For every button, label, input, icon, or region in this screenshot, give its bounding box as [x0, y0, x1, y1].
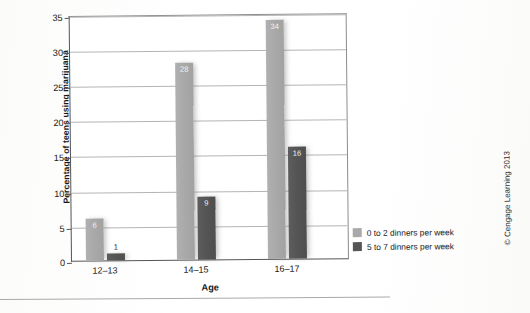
- bar-5to7-14-15[interactable]: 9: [197, 196, 216, 259]
- bar-chart-figure: Percentage of teens using marijuana 35 3…: [0, 0, 530, 313]
- bar-0to2-16-17[interactable]: 34: [266, 20, 286, 259]
- y-tick-label-0: 0: [60, 257, 65, 267]
- y-tick-10: [66, 193, 71, 194]
- chart-legend: 0 to 2 dinners per week 5 to 7 dinners p…: [353, 225, 454, 254]
- y-tick-5: [67, 228, 72, 229]
- bar-value-0to2-12-13: 6: [86, 220, 104, 229]
- legend-item-0to2[interactable]: 0 to 2 dinners per week: [353, 225, 454, 239]
- y-tick-25: [65, 88, 70, 89]
- bar-value-5to7-12-13: 1: [107, 242, 125, 251]
- bar-0to2-12-13[interactable]: 6: [86, 218, 104, 260]
- legend-swatch-icon-dark: [353, 242, 362, 251]
- bar-group-16-17: 34 16: [266, 14, 328, 259]
- y-tick-label-10: 10: [54, 188, 64, 198]
- bar-value-5to7-16-17: 16: [288, 148, 306, 157]
- y-tick-label-25: 25: [53, 83, 63, 93]
- y-tick-label-5: 5: [60, 224, 65, 234]
- bar-5to7-16-17[interactable]: 16: [288, 146, 307, 259]
- bar-value-0to2-16-17: 34: [266, 22, 284, 31]
- y-tick-0: [67, 262, 72, 263]
- x-tick-label-16-17: 16–17: [275, 264, 300, 274]
- x-tick-label-14-15: 14–15: [184, 265, 209, 275]
- bar-value-5to7-14-15: 9: [197, 198, 215, 207]
- y-tick-30: [65, 53, 70, 54]
- bar-0to2-14-15[interactable]: 28: [175, 63, 195, 260]
- legend-item-5to7[interactable]: 5 to 7 dinners per week: [353, 239, 454, 253]
- plot-area: 35 30 25 20 15 10 5 0: [69, 13, 349, 262]
- x-tick-label-12-13: 12–13: [93, 265, 118, 275]
- y-tick-20: [66, 123, 71, 124]
- y-tick-label-20: 20: [53, 118, 63, 128]
- y-tick-35: [65, 18, 70, 19]
- legend-label-0to2: 0 to 2 dinners per week: [367, 227, 454, 238]
- legend-swatch-icon-light: [353, 228, 362, 237]
- bar-5to7-12-13[interactable]: 1: [107, 253, 125, 260]
- y-tick-label-15: 15: [54, 153, 64, 163]
- bar-group-14-15: 28 9: [175, 15, 237, 260]
- bar-group-12-13: 6 1: [84, 16, 146, 261]
- y-tick-15: [66, 158, 71, 159]
- copyright-credit: © Cengage Learning 2013: [502, 138, 512, 258]
- bar-value-0to2-14-15: 28: [175, 65, 193, 74]
- x-axis-title: Age: [71, 281, 349, 294]
- y-tick-label-30: 30: [53, 48, 63, 58]
- y-tick-label-35: 35: [52, 13, 62, 23]
- legend-label-5to7: 5 to 7 dinners per week: [367, 241, 454, 252]
